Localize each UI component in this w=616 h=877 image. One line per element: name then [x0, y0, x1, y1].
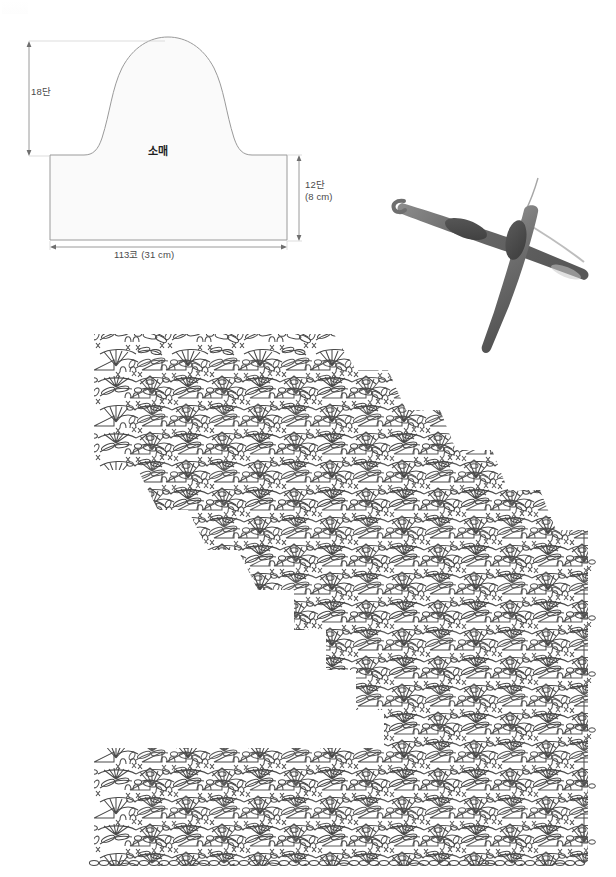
dim-body-height [287, 155, 302, 241]
chart-stitch-field [91, 329, 608, 870]
dim-label-body-rows: 12단 [305, 179, 325, 191]
sleeve-piece-label: 소매 [148, 145, 168, 157]
sleeve-schematic: 18단 12단 (8 cm) 113코 (31 cm) 소매 [0, 0, 330, 290]
page-corner-artifact [2, 1, 28, 14]
dim-label-body-cm: (8 cm) [305, 191, 333, 203]
dim-label-width: 113코 (31 cm) [114, 249, 174, 261]
crochet-stitch-chart-svg [88, 318, 608, 870]
sleeve-outline-shape [50, 37, 287, 240]
crochet-stitch-chart [88, 318, 608, 870]
dim-label-cap-height: 18단 [31, 86, 51, 98]
